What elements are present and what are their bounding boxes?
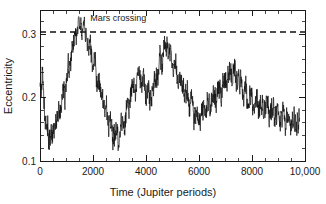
- y-axis-title: Eccentricity: [2, 57, 14, 114]
- x-axis-title: Time (Jupiter periods): [110, 186, 217, 198]
- x-tick-label-4000: 4000: [135, 166, 158, 177]
- mars-crossing-label: Mars crossing: [90, 13, 146, 23]
- x-tick-label-0: 0: [37, 166, 43, 177]
- figure-background: [0, 0, 326, 204]
- eccentricity-time-plot: Mars crossing 0.3 0.2 0.1 0 2000 4000 60…: [0, 0, 326, 204]
- x-tick-label-6000: 6000: [188, 166, 211, 177]
- y-tick-label-0.2: 0.2: [22, 92, 36, 103]
- y-tick-label-0.3: 0.3: [22, 29, 36, 40]
- x-tick-label-8000: 8000: [241, 166, 264, 177]
- chart-figure: Mars crossing 0.3 0.2 0.1 0 2000 4000 60…: [0, 0, 326, 204]
- x-tick-label-10000: 10,000: [290, 166, 321, 177]
- x-tick-label-2000: 2000: [82, 166, 105, 177]
- y-tick-label-0.1: 0.1: [22, 156, 36, 167]
